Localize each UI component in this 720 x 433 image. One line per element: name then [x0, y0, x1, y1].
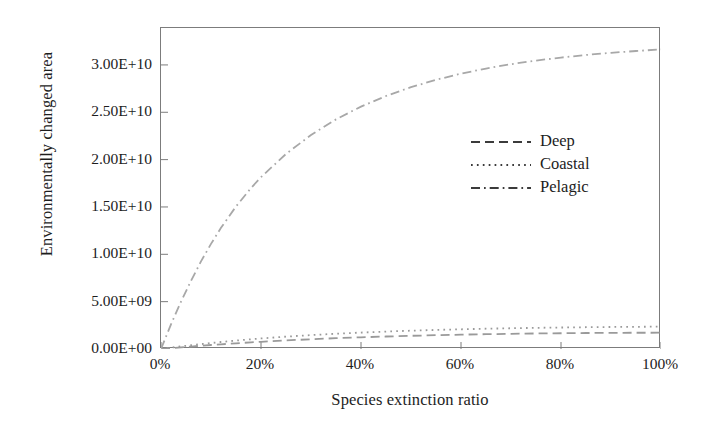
- legend-label: Pelagic: [540, 179, 589, 196]
- legend-label: Coastal: [540, 156, 590, 173]
- legend-item-pelagic: Pelagic: [470, 176, 635, 199]
- x-tick-label: 0%: [120, 356, 200, 372]
- x-tick-label: 20%: [220, 356, 300, 372]
- legend-swatch-pelagic-icon: [470, 181, 532, 195]
- series-line-coastal: [161, 327, 661, 349]
- legend-label: Deep: [540, 133, 575, 150]
- y-tick-label: 2.00E+10: [12, 151, 152, 167]
- y-tick-label: 1.50E+10: [12, 198, 152, 214]
- legend-swatch-coastal-icon: [470, 158, 532, 172]
- x-tick-label: 100%: [620, 356, 700, 372]
- y-tick-label: 5.00E+09: [12, 293, 152, 309]
- series-line-pelagic: [161, 49, 661, 349]
- chart-figure: Environmentally changed area 0.00E+005.0…: [0, 0, 720, 433]
- legend-item-coastal: Coastal: [470, 153, 635, 176]
- y-tick-label: 2.50E+10: [12, 104, 152, 120]
- legend-swatch-deep-icon: [470, 135, 532, 149]
- x-tick-label: 60%: [420, 356, 500, 372]
- x-axis-title: Species extinction ratio: [160, 390, 660, 410]
- chart-legend: DeepCoastalPelagic: [470, 130, 635, 199]
- y-tick-label: 1.00E+10: [12, 246, 152, 262]
- series-line-deep: [161, 333, 661, 349]
- y-tick-label: 0.00E+00: [12, 340, 152, 356]
- x-tick-label: 40%: [320, 356, 400, 372]
- x-tick-label: 80%: [520, 356, 600, 372]
- y-tick-label: 3.00E+10: [12, 56, 152, 72]
- legend-item-deep: Deep: [470, 130, 635, 153]
